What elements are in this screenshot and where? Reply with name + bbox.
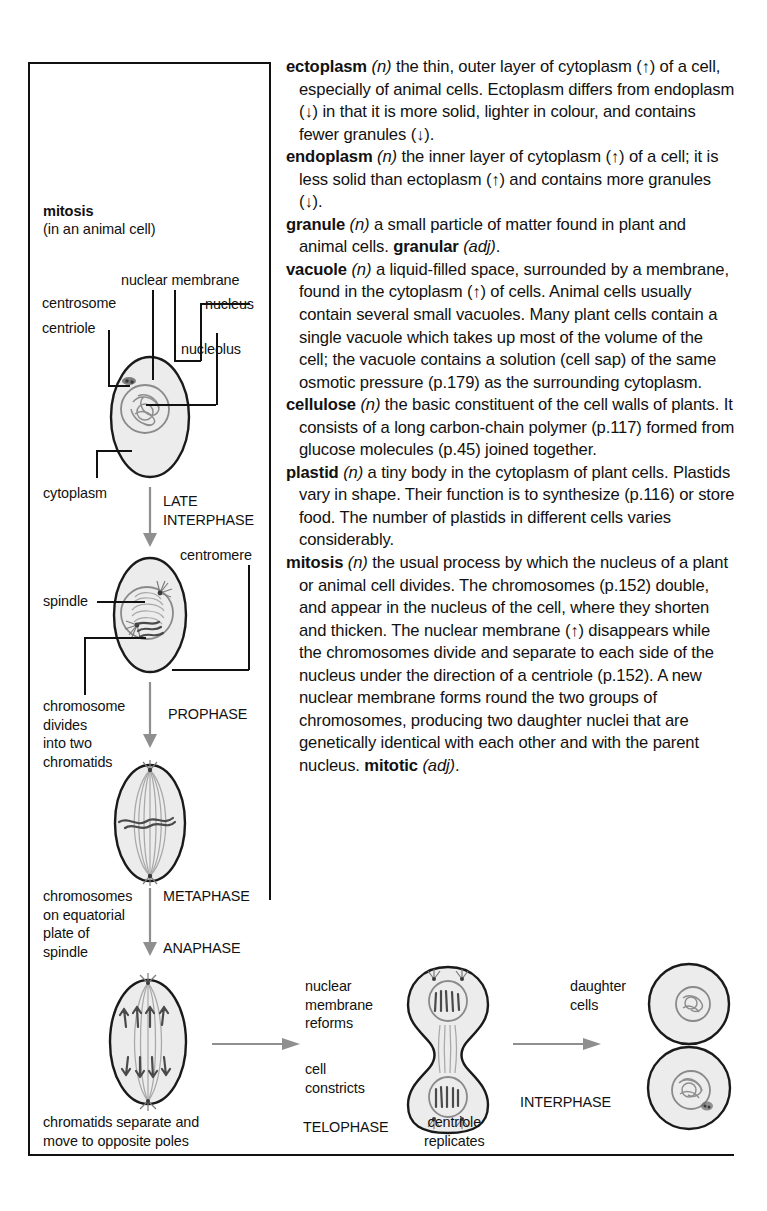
part-of-speech: (n) xyxy=(348,553,368,572)
definition-entry-ectoplasm: ectoplasm (n) the thin, outer layer of c… xyxy=(286,56,736,146)
cell-diagram-anaphase xyxy=(98,975,198,1110)
definition-entry-plastid: plastid (n) a tiny body in the cytoplasm… xyxy=(286,462,736,552)
derived-part-of-speech: (adj) xyxy=(463,237,496,256)
frame-left-border xyxy=(28,62,30,1156)
definition-entry-vacuole: vacuole (n) a liquid-filled space, surro… xyxy=(286,259,736,394)
label-daughter-cells: daughter cells xyxy=(570,977,626,1014)
label-nuclear-membrane-reforms: nuclear membrane reforms xyxy=(305,977,373,1033)
label-nuclear-membrane: nuclear membrane xyxy=(121,272,239,289)
definition-text: a tiny body in the cytoplasm of plant ce… xyxy=(299,463,734,550)
cell-diagram-daughter-lower xyxy=(645,1040,733,1136)
definitions-column: ectoplasm (n) the thin, outer layer of c… xyxy=(286,56,736,778)
label-nucleolus: nucleolus xyxy=(181,341,241,358)
cell-diagram-telophase xyxy=(400,963,496,1135)
leader-centromere-h xyxy=(172,669,249,671)
leader-chromosome-v xyxy=(84,637,86,695)
headword: plastid xyxy=(286,463,339,482)
definition-tail: . xyxy=(455,756,460,775)
headword: granule xyxy=(286,215,345,234)
part-of-speech: (n) xyxy=(372,57,392,76)
derived-part-of-speech: (adj) xyxy=(422,756,455,775)
cell-diagram-interphase xyxy=(105,352,195,482)
cell-diagram-daughter-upper xyxy=(645,960,733,1048)
headword: ectoplasm xyxy=(286,57,367,76)
definition-entry-endoplasm: endoplasm (n) the inner layer of cytopla… xyxy=(286,146,736,214)
leader-cytoplasm-h xyxy=(96,450,132,452)
diagram-title-block: mitosis (in an animal cell) xyxy=(43,203,155,238)
arrow-prophase xyxy=(140,682,160,750)
leader-nucleolus-h xyxy=(146,404,216,406)
label-cytoplasm: cytoplasm xyxy=(43,485,107,502)
label-centromere: centromere xyxy=(180,547,252,564)
leader-nuclear-membrane xyxy=(174,290,176,362)
part-of-speech: (n) xyxy=(360,395,380,414)
part-of-speech: (n) xyxy=(351,260,371,279)
diagram-panel-right-border xyxy=(269,62,271,900)
cell-diagram-metaphase xyxy=(105,760,195,890)
leader-chromosome-h xyxy=(84,637,146,639)
derived-form: granular xyxy=(393,237,458,256)
diagram-title: mitosis xyxy=(43,203,93,219)
definition-entry-mitosis: mitosis (n) the usual process by which t… xyxy=(286,552,736,777)
phase-label-late-interphase: LATE INTERPHASE xyxy=(163,492,254,530)
part-of-speech: (n) xyxy=(343,463,363,482)
arrow-metaphase xyxy=(140,888,160,958)
definition-entry-granule: granule (n) a small particle of matter f… xyxy=(286,214,736,259)
phase-label-interphase: INTERPHASE xyxy=(520,1094,611,1111)
frame-bottom-border xyxy=(28,1154,734,1156)
cell-diagram-early-prophase xyxy=(105,553,195,678)
definition-text: a liquid-filled space, surrounded by a m… xyxy=(299,260,729,392)
headword: mitosis xyxy=(286,553,343,572)
headword: endoplasm xyxy=(286,147,373,166)
part-of-speech: (n) xyxy=(377,147,397,166)
label-centriole-replicates: centriole replicates xyxy=(424,1113,485,1150)
arrow-to-telophase xyxy=(212,1036,302,1052)
phase-label-anaphase: ANAPHASE xyxy=(163,940,241,957)
phase-label-metaphase: METAPHASE xyxy=(163,888,250,905)
diagram-panel-top-border xyxy=(28,62,271,64)
diagram-subtitle: (in an animal cell) xyxy=(43,221,155,237)
leader-nucleus-h2 xyxy=(175,360,201,362)
phase-label-telophase: TELOPHASE xyxy=(303,1119,388,1136)
dictionary-page: ectoplasm (n) the thin, outer layer of c… xyxy=(0,0,767,1211)
definition-entry-cellulose: cellulose (n) the basic constituent of t… xyxy=(286,394,736,462)
leader-centriole-h xyxy=(108,385,130,387)
definition-tail: . xyxy=(496,237,501,256)
arrow-to-interphase xyxy=(513,1036,603,1052)
headword: vacuole xyxy=(286,260,347,279)
label-cell-constricts: cell constricts xyxy=(305,1060,365,1097)
label-centrosome: centrosome xyxy=(42,295,116,312)
arrow-late-interphase xyxy=(140,487,160,549)
label-spindle: spindle xyxy=(43,593,88,610)
leader-spindle xyxy=(97,601,145,603)
leader-centromere-v xyxy=(248,565,250,670)
phase-label-prophase: PROPHASE xyxy=(168,706,247,723)
label-centriole: centriole xyxy=(42,320,96,337)
label-chromatids-separate: chromatids separate and move to opposite… xyxy=(43,1113,199,1150)
derived-form: mitotic xyxy=(364,756,418,775)
definition-text: the usual process by which the nucleus o… xyxy=(299,553,728,775)
headword: cellulose xyxy=(286,395,356,414)
label-nucleus: nucleus xyxy=(205,296,254,313)
leader-centriole-v xyxy=(108,330,110,386)
leader-cytoplasm-v xyxy=(96,450,98,478)
leader-centrosome-v xyxy=(152,290,154,380)
label-chromosomes-equatorial: chromosomes on equatorial plate of spind… xyxy=(43,887,132,961)
part-of-speech: (n) xyxy=(350,215,370,234)
